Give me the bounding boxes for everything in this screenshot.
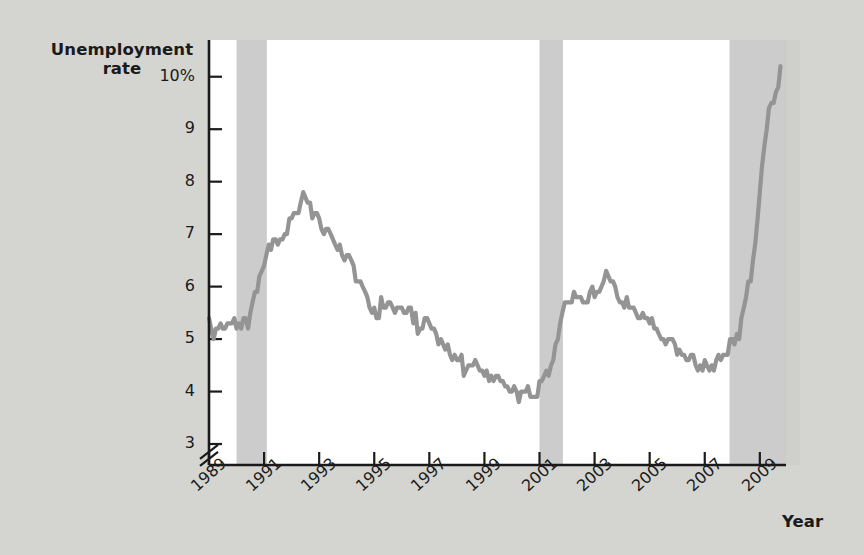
y-axis-tick-label: 9 xyxy=(135,118,195,137)
y-axis-tick-label: 10% xyxy=(135,66,195,85)
y-axis-tick-label: 4 xyxy=(135,381,195,400)
recession-band xyxy=(540,40,563,465)
plot-background-group xyxy=(209,40,786,465)
plot-background xyxy=(209,40,786,465)
y-axis-tick-label: 8 xyxy=(135,171,195,190)
recession-band-overflow xyxy=(786,40,800,465)
recession-band xyxy=(730,40,786,465)
unemployment-rate-chart: Unemployment rate Year 10%9876543 198919… xyxy=(0,0,864,555)
y-axis-tick-label: 3 xyxy=(135,433,195,452)
recession-band xyxy=(237,40,267,465)
y-axis-tick-label: 6 xyxy=(135,276,195,295)
y-axis-tick-label: 7 xyxy=(135,223,195,242)
y-axis-tick-label: 5 xyxy=(135,328,195,347)
